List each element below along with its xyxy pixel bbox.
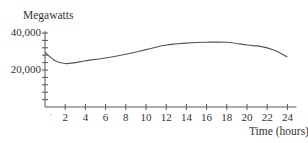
- y-axis-label: Megawatts: [23, 9, 73, 21]
- x-tick-label: 16: [199, 111, 215, 123]
- x-tick-label: 20: [239, 111, 255, 123]
- x-tick-label: 8: [118, 111, 134, 123]
- x-tick-label: 2: [57, 111, 73, 123]
- ticks: [42, 33, 287, 110]
- x-tick-label: 6: [98, 111, 114, 123]
- x-axis-label: Time (hours): [249, 125, 308, 137]
- origin-mark: ·: [49, 108, 53, 120]
- power-consumption-line: [45, 42, 287, 64]
- x-tick-label: 24: [279, 111, 295, 123]
- x-tick-label: 22: [259, 111, 275, 123]
- x-tick-label: 12: [158, 111, 174, 123]
- x-tick-label: 10: [138, 111, 154, 123]
- x-tick-label: 14: [178, 111, 194, 123]
- y-tick-label-40000: 40,000: [1, 26, 41, 38]
- x-tick-label: 18: [219, 111, 235, 123]
- axes: [45, 31, 296, 107]
- y-tick-label-20000: 20,000: [1, 63, 41, 75]
- x-tick-label: 4: [77, 111, 93, 123]
